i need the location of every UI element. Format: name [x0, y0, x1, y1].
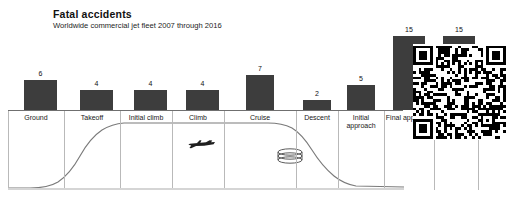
qr-code-icon[interactable] [413, 44, 506, 140]
bar-takeoff[interactable] [80, 90, 113, 110]
bar-value-label: 4 [80, 80, 113, 88]
bar-value-label: 7 [246, 65, 274, 73]
bar-value-label: 4 [186, 80, 219, 88]
bar-value-label: 4 [134, 80, 167, 88]
ground-line [8, 188, 404, 190]
category-label-cruise: Cruise [224, 114, 296, 122]
bar-value-label: 2 [303, 90, 331, 98]
category-label-ground: Ground [8, 114, 64, 122]
bar-initial-climb[interactable] [134, 90, 167, 110]
bar-value-label: 15 [443, 26, 475, 34]
baseline-axis [8, 110, 403, 111]
fatal-accidents-infographic: Fatal accidents Worldwide commercial jet… [0, 0, 516, 202]
category-label-climb: Climb [172, 114, 224, 122]
chart-plot-area: 6Ground4Takeoff4Initial climb4Climb7Crui… [0, 0, 410, 202]
category-label-descent: Descent [296, 114, 338, 122]
bar-value-label: 15 [393, 26, 425, 34]
bar-descent[interactable] [303, 100, 331, 110]
bar-initial-approach[interactable] [347, 85, 375, 110]
category-label-initial-approach: Initial approach [338, 114, 384, 131]
category-label-initial-climb: Initial climb [120, 114, 172, 122]
bar-value-label: 6 [24, 70, 57, 78]
bars-and-labels-layer: 6Ground4Takeoff4Initial climb4Climb7Crui… [0, 0, 410, 202]
bar-value-label: 5 [347, 75, 375, 83]
bar-climb[interactable] [186, 90, 219, 110]
bar-ground[interactable] [24, 80, 57, 110]
category-label-takeoff: Takeoff [64, 114, 120, 122]
qr-code-svg [413, 44, 506, 140]
bar-cruise[interactable] [246, 75, 274, 110]
